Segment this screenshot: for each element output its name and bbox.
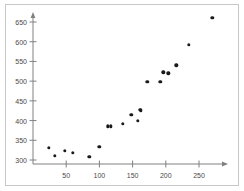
y-axis-tick-label: 450: [6, 97, 27, 104]
y-axis-tick-label: 350: [6, 137, 27, 144]
y-axis-tick-label: 400: [6, 117, 27, 124]
scatter-plot-figure: 300350400450500550600650 50100150200250: [0, 0, 244, 191]
plot-area: 300350400450500550600650 50100150200250: [0, 0, 244, 191]
y-axis-tick-label: 550: [6, 58, 27, 65]
x-axis-tick-label: 50: [62, 172, 70, 179]
x-axis-tick-label: 250: [193, 172, 205, 179]
x-axis-tick-label: 150: [127, 172, 139, 179]
y-axis-tick-label: 500: [6, 78, 27, 85]
y-axis-tick-label: 650: [6, 19, 27, 26]
y-axis-tick-label: 600: [6, 38, 27, 45]
x-axis-arrow-icon: [222, 162, 228, 167]
x-axis-tick-label: 100: [94, 172, 106, 179]
axis-lines: [31, 12, 228, 166]
y-axis-arrow-icon: [31, 12, 36, 18]
x-axis-tick-label: 200: [160, 172, 172, 179]
y-axis-tick-label: 300: [6, 157, 27, 164]
axes-svg: [0, 0, 244, 191]
